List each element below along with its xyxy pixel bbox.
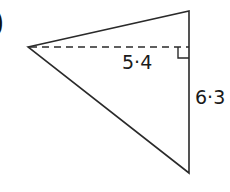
right-angle-marker <box>178 47 189 58</box>
triangle <box>28 11 189 173</box>
side-label: 6·3 <box>195 88 225 107</box>
height-label: 5·4 <box>122 53 152 72</box>
